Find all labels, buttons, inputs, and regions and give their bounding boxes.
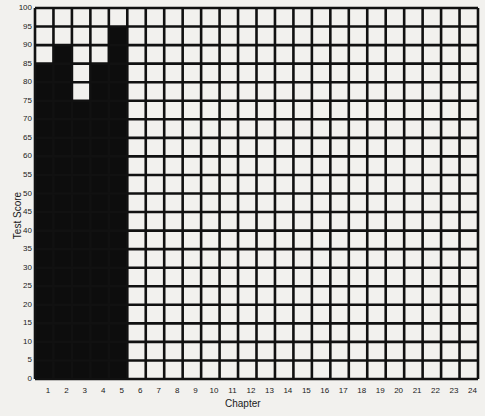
y-tick-label: 70	[10, 114, 32, 123]
x-tick-label: 13	[261, 386, 277, 395]
bar-chapter-4	[90, 64, 109, 379]
x-tick-label: 21	[409, 386, 425, 395]
y-tick-label: 55	[10, 170, 32, 179]
x-tick-label: 1	[40, 386, 56, 395]
plot-area	[0, 0, 485, 416]
y-tick-label: 90	[10, 40, 32, 49]
y-tick-label: 75	[10, 96, 32, 105]
bar-chapter-3	[72, 101, 91, 379]
y-tick-label: 15	[10, 318, 32, 327]
x-tick-label: 22	[428, 386, 444, 395]
y-tick-label: 85	[10, 59, 32, 68]
x-tick-label: 11	[225, 386, 241, 395]
x-tick-label: 2	[58, 386, 74, 395]
x-tick-label: 18	[354, 386, 370, 395]
x-tick-label: 5	[114, 386, 130, 395]
x-tick-label: 23	[446, 386, 462, 395]
x-tick-label: 3	[77, 386, 93, 395]
y-axis-label: Test Score	[12, 181, 23, 251]
y-tick-label: 30	[10, 263, 32, 272]
x-tick-label: 6	[132, 386, 148, 395]
x-tick-label: 15	[298, 386, 314, 395]
y-tick-label: 65	[10, 133, 32, 142]
x-tick-label: 12	[243, 386, 259, 395]
y-tick-label: 80	[10, 77, 32, 86]
y-tick-label: 5	[10, 355, 32, 364]
x-tick-label: 14	[280, 386, 296, 395]
y-tick-label: 60	[10, 151, 32, 160]
y-tick-label: 25	[10, 281, 32, 290]
x-tick-label: 4	[95, 386, 111, 395]
y-tick-label: 100	[10, 3, 32, 12]
bar-chart: 0510152025303540455055606570758085909510…	[0, 0, 485, 416]
bar-chapter-5	[109, 27, 128, 379]
x-tick-label: 17	[335, 386, 351, 395]
x-tick-label: 19	[372, 386, 388, 395]
x-tick-label: 9	[188, 386, 204, 395]
x-tick-label: 8	[169, 386, 185, 395]
x-tick-label: 24	[464, 386, 480, 395]
x-tick-label: 7	[151, 386, 167, 395]
y-tick-label: 10	[10, 337, 32, 346]
y-tick-label: 0	[10, 374, 32, 383]
x-tick-label: 16	[317, 386, 333, 395]
x-tick-label: 20	[391, 386, 407, 395]
x-tick-label: 10	[206, 386, 222, 395]
y-tick-label: 20	[10, 300, 32, 309]
x-axis-label: Chapter	[225, 398, 261, 409]
y-tick-label: 95	[10, 22, 32, 31]
bar-chapter-1	[35, 64, 54, 379]
